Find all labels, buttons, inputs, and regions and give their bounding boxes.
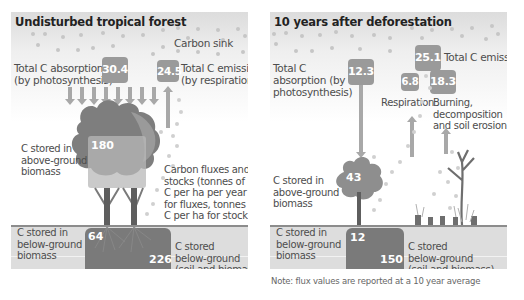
below-biomass-label: C stored in below-ground biomass xyxy=(17,227,82,262)
below-biomass-label: C stored in below-ground biomass xyxy=(276,227,341,262)
undisturbed-forest-panel: Undisturbed tropical forest Carbon sink … xyxy=(11,12,248,269)
deforestation-panel: 10 years after deforestation 25.1 Total … xyxy=(270,12,507,269)
below-total-label: C stored below-ground (soil and biomass) xyxy=(175,241,248,269)
above-ground-value: 43 xyxy=(346,171,361,184)
below-biomass-value: 64 xyxy=(88,230,103,243)
above-ground-label: C stored in above-ground biomass xyxy=(273,175,339,210)
footnote: Note: flux values are reported at a 10 y… xyxy=(271,276,480,286)
below-total-label: C stored below-ground (soil and biomass) xyxy=(408,241,494,269)
below-total-value: 226 xyxy=(149,253,172,266)
below-biomass-value: 12 xyxy=(350,231,365,244)
below-total-value: 150 xyxy=(380,253,403,266)
